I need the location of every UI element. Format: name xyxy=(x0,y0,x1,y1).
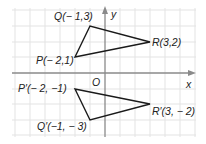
y-axis-label: y xyxy=(110,8,117,20)
origin-label: O xyxy=(92,76,100,88)
vertex-label-r-prime: R′(3, − 2) xyxy=(152,105,195,117)
vertex-label-p: P(− 2,1) xyxy=(36,54,74,66)
vertex-label-p-prime: P′(− 2, −1) xyxy=(18,82,67,94)
vertex-label-q-prime: Q′(−1, − 3) xyxy=(37,120,87,132)
coordinate-plane-figure: y x O Q(− 1,3) R(3,2) P(− 2,1) P′(− 2, −… xyxy=(0,0,206,144)
vertex-label-r: R(3,2) xyxy=(152,36,181,48)
vertex-label-q: Q(− 1,3) xyxy=(54,10,93,22)
x-axis-label: x xyxy=(185,78,192,90)
